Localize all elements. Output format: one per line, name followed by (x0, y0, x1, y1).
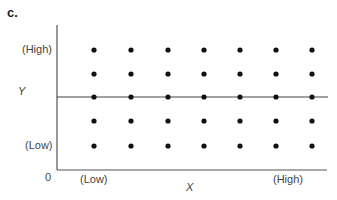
data-point (273, 71, 278, 76)
data-point (309, 94, 314, 99)
x-axis-label: X (186, 181, 193, 193)
origin-label: 0 (45, 171, 51, 183)
data-point (273, 143, 278, 148)
data-point (128, 118, 133, 123)
data-point (237, 94, 242, 99)
data-point (128, 71, 133, 76)
data-point (128, 47, 133, 52)
data-point (201, 143, 206, 148)
data-point (165, 94, 170, 99)
data-point (273, 118, 278, 123)
data-point (165, 118, 170, 123)
data-point (237, 118, 242, 123)
data-point (273, 47, 278, 52)
data-point (309, 143, 314, 148)
data-point (273, 94, 278, 99)
data-point (91, 143, 96, 148)
y-low-label: (Low) (25, 139, 53, 151)
data-points (91, 47, 314, 148)
data-point (309, 118, 314, 123)
y-axis-label: Y (18, 85, 25, 97)
data-point (237, 143, 242, 148)
data-point (201, 118, 206, 123)
data-point (237, 47, 242, 52)
data-point (91, 71, 96, 76)
data-point (165, 47, 170, 52)
data-point (201, 47, 206, 52)
y-high-label: (High) (22, 43, 52, 55)
data-point (91, 118, 96, 123)
data-point (165, 143, 170, 148)
data-point (237, 71, 242, 76)
data-point (91, 47, 96, 52)
data-point (91, 94, 96, 99)
data-point (128, 94, 133, 99)
data-point (309, 71, 314, 76)
data-point (201, 71, 206, 76)
x-high-label: (High) (273, 173, 303, 185)
data-point (201, 94, 206, 99)
scatter-plot (0, 0, 337, 200)
data-point (128, 143, 133, 148)
data-point (309, 47, 314, 52)
x-low-label: (Low) (80, 173, 108, 185)
data-point (165, 71, 170, 76)
